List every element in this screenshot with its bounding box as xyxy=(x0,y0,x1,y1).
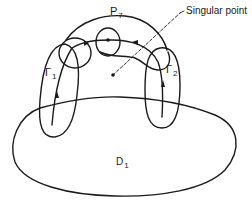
label-p7: P7 xyxy=(110,6,123,17)
label-gamma1-base: Γ xyxy=(45,66,51,78)
label-gamma1-sub: 1 xyxy=(52,72,56,81)
singular-point xyxy=(111,73,115,77)
label-d1-sub: 1 xyxy=(124,161,128,170)
label-singular-point: Singular point xyxy=(186,6,247,16)
label-p7-base: P xyxy=(110,5,117,17)
label-gamma1: Γ1 xyxy=(45,67,57,78)
label-p7-sub: 7 xyxy=(118,11,122,20)
region-d1-boundary xyxy=(13,97,236,196)
label-d1-base: D xyxy=(116,156,123,167)
point-p7 xyxy=(106,38,110,42)
neighborhood-gamma1 xyxy=(40,44,79,137)
singular-label-tick xyxy=(180,11,184,13)
diagram-canvas xyxy=(0,0,252,204)
label-d1: D1 xyxy=(116,157,129,167)
label-gamma2: Γ2 xyxy=(166,64,178,75)
label-gamma2-base: Γ xyxy=(166,63,172,75)
label-gamma2-sub: 2 xyxy=(173,69,177,78)
orbit-path xyxy=(52,40,163,125)
